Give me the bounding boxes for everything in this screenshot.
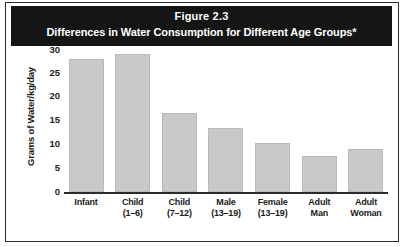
figure-title: Differences in Water Consumption for Dif… xyxy=(11,25,392,39)
y-tick: 20 xyxy=(38,91,60,100)
bar xyxy=(115,54,150,192)
figure-frame: Figure 2.3 Differences in Water Consumpt… xyxy=(5,2,399,242)
y-tick: 15 xyxy=(38,115,60,124)
x-tick-label: Male(13–19) xyxy=(206,197,246,219)
bar xyxy=(255,143,290,192)
bar-slot xyxy=(113,49,153,192)
bars-container xyxy=(64,49,388,192)
y-axis-label: Grams of Water/kg/day xyxy=(25,57,36,177)
y-tick: 5 xyxy=(38,163,60,172)
bar-slot xyxy=(206,49,246,192)
bar xyxy=(302,156,337,192)
x-tick-label: Child(1–6) xyxy=(113,197,153,219)
figure-number: Figure 2.3 xyxy=(11,10,392,23)
bar xyxy=(162,113,197,192)
bar xyxy=(348,149,383,192)
bar-slot xyxy=(346,49,386,192)
bar-slot xyxy=(159,49,199,192)
bar xyxy=(69,59,104,192)
bar-slot xyxy=(299,49,339,192)
x-axis-labels: InfantChild(1–6)Child(7–12)Male(13–19)Fe… xyxy=(64,197,388,219)
x-tick-label: AdultWoman xyxy=(346,197,386,219)
y-tick: 25 xyxy=(38,68,60,77)
y-tick: 10 xyxy=(38,139,60,148)
x-tick-label: Infant xyxy=(66,197,106,219)
plot-area: Grams of Water/kg/day 30 25 20 15 10 5 0… xyxy=(11,49,392,239)
bar-series xyxy=(64,49,388,192)
x-tick-label: Female(13–19) xyxy=(253,197,293,219)
x-axis-line xyxy=(64,192,388,194)
bar-slot xyxy=(253,49,293,192)
x-tick-label: Child(7–12) xyxy=(159,197,199,219)
bar-slot xyxy=(66,49,106,192)
y-tick: 0 xyxy=(38,187,60,196)
figure-title-bar: Figure 2.3 Differences in Water Consumpt… xyxy=(11,6,392,46)
y-tick: 30 xyxy=(38,45,60,54)
x-tick-label: AdultMan xyxy=(299,197,339,219)
bar xyxy=(208,128,243,192)
y-axis-ticks: 30 25 20 15 10 5 0 xyxy=(36,49,60,192)
